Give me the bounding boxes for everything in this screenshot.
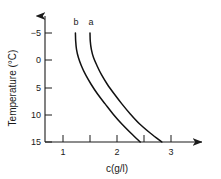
curve-label-a: a <box>89 17 94 27</box>
x-tick-label-2: 3 <box>168 147 173 157</box>
chart-figure: −5 0 5 10 15 1 2 3 Temperature (°C) c(g/… <box>0 0 221 179</box>
y-axis-title: Temperature (°C) <box>7 50 18 127</box>
curve-label-b: b <box>73 17 78 27</box>
y-tick-label-3: 10 <box>31 110 41 120</box>
x-tick-label-1: 2 <box>114 147 119 157</box>
x-axis-title: c(g/l) <box>106 163 128 174</box>
x-tick-label-0: 1 <box>60 147 65 157</box>
solubility-chart: −5 0 5 10 15 1 2 3 Temperature (°C) c(g/… <box>0 0 221 179</box>
y-tick-label-4: 15 <box>31 137 41 147</box>
y-tick-label-2: 5 <box>36 83 41 93</box>
y-tick-label-1: 0 <box>36 55 41 65</box>
y-tick-label-0: −5 <box>31 28 41 38</box>
